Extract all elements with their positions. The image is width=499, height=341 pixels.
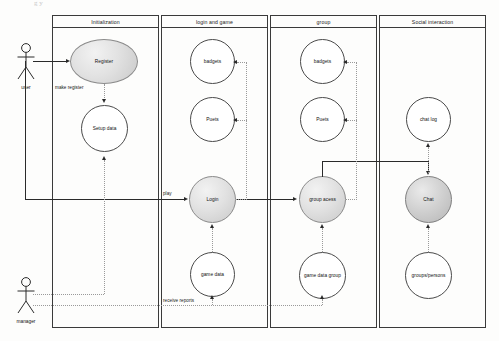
edge-manager-to-game-data-riser [212,299,213,305]
actor-manager-label: manager [4,319,48,324]
use-case-login[interactable]: Login [189,176,236,223]
actor-manager-icon [12,276,40,318]
actor-manager [12,276,40,322]
edge-manager-to-setup-data-vertical [104,160,105,294]
edge-game-data-group-to-group-acess [322,228,323,252]
edge-manager-to-setup-data-horizontal [33,294,104,295]
actor-user-icon [12,42,40,84]
use-case-game-data-group-label: game data group [304,273,341,278]
use-case-points-game-label: Puets [206,117,219,122]
edge-groups-persons-to-chat-arrowhead [426,224,430,228]
edge-label-receive-reports: receive reports [163,298,194,303]
edge-chat-to-chat-log [428,147,429,173]
use-case-groups-persons[interactable]: groups/persons [405,252,452,299]
edge-register-to-setup-data [104,84,105,100]
edge-label-make-register: make register [55,85,83,90]
edge-login-to-rewards-riser [246,62,247,200]
edge-label-play: play [163,191,172,196]
edge-group-acess-to-rewards-stub [346,199,357,200]
top-partial-caption: g y [34,0,43,7]
use-case-setup-data[interactable]: Setup data [81,105,128,152]
edge-manager-to-setup-data-arrowhead [102,156,106,160]
package-title-initialization: Initialization [53,16,158,28]
edge-manager-reports-horizontal [33,305,322,306]
use-case-points-group-label: Puets [316,117,329,122]
edge-badgets-group-connector [347,62,357,63]
edge-login-to-group-acess-arrowhead [293,197,297,201]
edge-user-to-register [33,61,67,62]
edge-user-to-login-vertical [25,61,26,199]
use-case-game-data[interactable]: game data [190,252,235,297]
edge-user-to-login-horizontal [25,199,185,200]
edge-login-to-rewards-stub [236,199,247,200]
use-case-chat[interactable]: Chat [405,176,452,223]
use-case-login-label: Login [207,197,219,202]
edge-user-to-login-arrowhead [184,197,188,201]
actor-user [12,42,40,88]
edge-group-acess-to-chat-horizontal [322,161,429,162]
use-case-game-data-group[interactable]: game data group [299,252,346,299]
edge-badgets-game-arrowhead [233,60,237,64]
edge-manager-to-game-data-group-arrowhead [320,295,324,299]
package-title-group: group [271,16,376,28]
edge-points-game-arrowhead [233,118,237,122]
use-case-badgets-game[interactable]: badgets [190,39,235,84]
edge-register-to-setup-data-arrowhead [102,99,106,103]
use-case-register[interactable]: Register [70,39,138,84]
use-case-points-game[interactable]: Puets [190,97,235,142]
edge-manager-to-game-data-arrowhead [210,295,214,299]
use-case-setup-data-label: Setup data [93,126,117,131]
use-case-diagram-canvas: g y Initialization login and game group … [0,0,499,341]
edge-game-data-group-to-group-acess-arrowhead [320,224,324,228]
use-case-chat-label: Chat [423,197,433,202]
edge-group-acess-to-chat-riser [322,161,323,177]
use-case-group-acess-label: group acess [309,197,336,202]
edge-groups-persons-to-chat [428,228,429,252]
edge-game-data-to-login [212,228,213,252]
edge-badgets-game-connector [237,62,247,63]
use-case-register-label: Register [95,59,113,64]
edge-manager-to-game-data-group-riser [322,299,323,305]
edge-game-data-to-login-arrowhead [210,224,214,228]
use-case-chat-log-label: chat log [420,117,437,122]
actor-user-label: user [6,85,46,90]
use-case-badgets-group-label: badgets [314,59,331,64]
edge-points-game-connector [237,120,247,121]
use-case-points-group[interactable]: Puets [300,97,345,142]
use-case-badgets-group[interactable]: badgets [300,39,345,84]
use-case-chat-log[interactable]: chat log [406,97,451,142]
use-case-game-data-label: game data [201,272,224,277]
edge-points-group-connector [347,120,357,121]
edge-points-group-arrowhead [343,118,347,122]
edge-group-acess-to-rewards-riser [356,62,357,200]
edge-badgets-group-arrowhead [343,60,347,64]
edge-chat-to-chat-log-arrowhead [426,143,430,147]
package-title-social-interaction: Social interaction [380,16,485,28]
use-case-badgets-game-label: badgets [204,59,221,64]
use-case-groups-persons-label: groups/persons [412,273,446,278]
use-case-group-acess[interactable]: group acess [299,176,346,223]
package-title-login-and-game: login and game [162,16,267,28]
edge-user-to-register-arrowhead [66,59,70,63]
